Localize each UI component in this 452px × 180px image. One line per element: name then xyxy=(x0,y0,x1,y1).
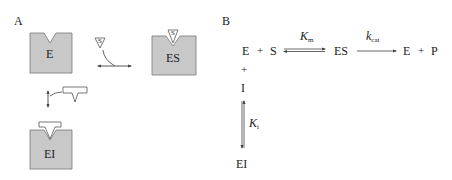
inhibitor-shape xyxy=(63,87,87,102)
eq-s: S xyxy=(270,44,277,59)
eq-plus-2: + xyxy=(418,44,424,56)
eq-ei: EI xyxy=(236,157,247,172)
es-substrate-label: S xyxy=(171,29,175,37)
ki-label: Ki xyxy=(249,116,259,131)
eq-inhibitor: I xyxy=(241,81,245,96)
enzyme-label: E xyxy=(46,47,53,62)
eq-p: P xyxy=(431,44,438,59)
binding-curve xyxy=(103,50,115,66)
substrate-label: S xyxy=(98,37,102,45)
kcat-label: kcat xyxy=(366,29,380,44)
panel-a-label: A xyxy=(14,14,23,29)
km-label: Km xyxy=(300,29,313,44)
eq-e: E xyxy=(242,44,249,59)
eq-plus-1: + xyxy=(257,44,263,56)
panel-b-label: B xyxy=(222,14,230,29)
es-complex-label: ES xyxy=(166,51,180,66)
eq-plus-vertical: + xyxy=(241,63,247,75)
eq-e2: E xyxy=(403,44,410,59)
eq-es: ES xyxy=(334,44,348,59)
ei-complex-label: EI xyxy=(44,147,55,162)
